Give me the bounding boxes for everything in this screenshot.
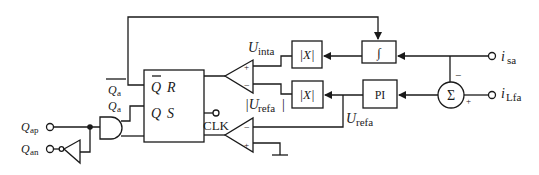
svg-text:|X|: |X| [299, 47, 314, 62]
pi-controller-block: PI [363, 80, 397, 108]
svg-text:−: − [244, 80, 250, 91]
comparator-top: + − [225, 60, 253, 93]
svg-text:i: i [501, 49, 505, 64]
inverter-gate [59, 140, 80, 163]
integrator-block: ∫ [362, 41, 396, 63]
abs-block-bottom: |X| [292, 81, 323, 108]
clk-terminal[interactable]: CLK [203, 110, 230, 133]
q-a-label: Q a [108, 99, 121, 114]
svg-text:refa: refa [356, 116, 373, 128]
svg-text:an: an [30, 147, 39, 157]
sum-minus-sign: − [455, 69, 461, 81]
svg-text:|: | [282, 97, 285, 112]
and-gate [100, 117, 122, 139]
q-a-bar-label: Q a [106, 79, 126, 98]
sum-plus-sign: + [466, 96, 471, 106]
q-an-terminal[interactable]: Q an [21, 142, 54, 157]
svg-text:refa: refa [258, 102, 275, 114]
sr-flipflop: Q R Q S [144, 70, 204, 142]
svg-text:sa: sa [507, 54, 516, 66]
svg-text:Q: Q [108, 83, 117, 97]
abs-block-top: |X| [292, 41, 322, 68]
comparator-bottom: − + [225, 118, 253, 152]
svg-text:|X|: |X| [299, 87, 314, 102]
svg-text:CLK: CLK [203, 118, 230, 133]
svg-text:PI: PI [375, 88, 386, 102]
svg-text:Q: Q [21, 142, 30, 156]
i-sa-terminal[interactable]: i sa [398, 49, 516, 66]
control-diagram: ∫ i sa − Σ + i Lfa PI |X| |X| [0, 0, 539, 175]
ground-wire [253, 143, 280, 155]
svg-text:−: − [244, 122, 250, 133]
svg-text:Q: Q [108, 99, 117, 113]
svg-text:a: a [117, 104, 121, 114]
inverter-to-junction-wire [80, 127, 90, 152]
svg-text:i: i [501, 86, 505, 101]
svg-text:Q: Q [151, 80, 161, 95]
svg-text:+: + [244, 140, 249, 150]
svg-text:+: + [244, 62, 249, 72]
u-inta-wire [253, 56, 292, 66]
svg-text:inta: inta [258, 45, 275, 57]
i-lfa-terminal[interactable]: i Lfa [464, 86, 521, 103]
svg-text:a: a [117, 88, 121, 98]
sum-junction: Σ [438, 82, 464, 108]
svg-text:S: S [167, 106, 174, 121]
svg-text:Σ: Σ [447, 88, 455, 103]
and-to-q-wire [121, 106, 144, 121]
q-ap-terminal[interactable]: Q ap [21, 120, 54, 135]
abs-u-refa-wire [253, 84, 292, 94]
svg-text:Q: Q [21, 120, 30, 134]
svg-text:ap: ap [30, 125, 39, 135]
svg-text:Q: Q [151, 106, 161, 121]
svg-text:R: R [166, 80, 176, 95]
svg-text:Lfa: Lfa [506, 91, 521, 103]
